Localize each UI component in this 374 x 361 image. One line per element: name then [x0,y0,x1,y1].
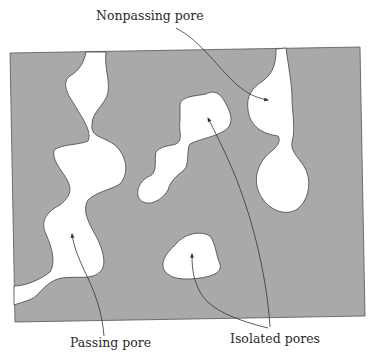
label-nonpassing-pore: Nonpassing pore [96,8,204,23]
solid-matrix [10,47,365,322]
label-isolated-pores: Isolated pores [230,331,320,346]
label-passing-pore: Passing pore [70,335,151,350]
porous-medium-diagram: Nonpassing pore Passing pore Isolated po… [0,0,374,361]
diagram-graphic [0,0,374,361]
